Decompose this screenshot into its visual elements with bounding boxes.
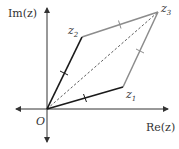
diagonal-o-z3 [47, 12, 158, 109]
z2-label: z2 [67, 24, 79, 39]
side-z1-z3 [123, 12, 158, 87]
z3-label: z3 [160, 2, 172, 17]
imaginary-axis-label: Im(z) [8, 7, 37, 20]
real-axis-label: Re(z) [146, 121, 175, 134]
origin-label: O [36, 115, 45, 128]
z1-label: z1 [125, 88, 136, 103]
complex-plane-diagram: Im(z) Re(z) O z1 z2 z3 [0, 0, 179, 149]
